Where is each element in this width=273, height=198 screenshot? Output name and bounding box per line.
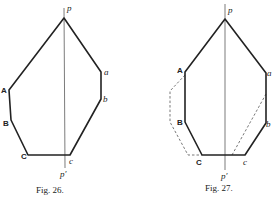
figure-26: p p′ A B C a b c Fig. 26. <box>1 3 109 195</box>
label-A: A <box>177 66 183 75</box>
label-b: b <box>266 119 271 129</box>
label-p: p <box>227 5 233 15</box>
label-p-prime: p′ <box>59 169 68 179</box>
label-a: a <box>104 67 109 77</box>
label-C: C <box>196 158 202 167</box>
label-C: C <box>21 152 27 161</box>
label-B: B <box>177 118 183 127</box>
label-c: c <box>243 157 247 167</box>
label-A: A <box>1 86 7 95</box>
figure-caption: Fig. 27. <box>205 183 233 193</box>
figure-27: p p′ A B C a b c Fig. 27. <box>170 4 272 193</box>
diagram-canvas: p p′ A B C a b c Fig. 26. p p′ A B C a b… <box>0 0 273 198</box>
label-p: p <box>66 3 72 13</box>
polygon-outline <box>185 19 266 155</box>
axis-line <box>64 8 65 168</box>
label-b: b <box>103 94 108 104</box>
polygon-outline <box>9 18 101 155</box>
label-c: c <box>69 156 73 166</box>
figure-caption: Fig. 26. <box>36 185 64 195</box>
dashed-line-right <box>232 94 266 155</box>
label-a: a <box>267 68 272 78</box>
dashed-outline-left <box>170 75 202 155</box>
label-B: B <box>3 119 9 128</box>
label-p-prime: p′ <box>220 171 229 181</box>
